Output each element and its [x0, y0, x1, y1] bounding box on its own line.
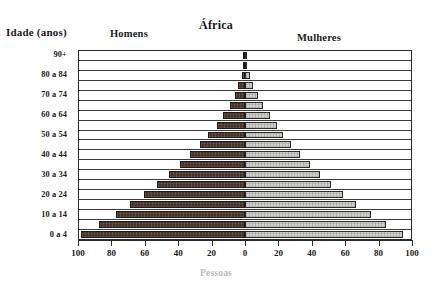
bar-mulheres [245, 221, 386, 228]
bar-row [79, 70, 411, 80]
y-tick-label: 80 a 84 [0, 70, 72, 80]
x-tick [245, 240, 246, 246]
bar-homens [130, 201, 245, 208]
bar-mulheres [245, 72, 250, 79]
bar-homens [169, 171, 245, 178]
bar-row [79, 90, 411, 100]
x-tick-label: 20 [207, 248, 216, 258]
bar-homens [157, 181, 245, 188]
legend-label-mulheres: Mulheres [297, 32, 341, 43]
bar-rows [79, 51, 411, 239]
x-tick-label: 60 [341, 248, 350, 258]
bar-row [79, 209, 411, 219]
x-axis: 10080604020020406080100 [78, 240, 412, 241]
x-tick [345, 240, 346, 246]
bar-homens [81, 231, 245, 238]
y-tick-label: 10 a 14 [0, 210, 72, 220]
bar-mulheres [245, 231, 403, 238]
y-tick-label: 20 a 24 [0, 190, 72, 200]
bar-row [79, 159, 411, 169]
bar-row [79, 80, 411, 90]
x-tick-label: 80 [374, 248, 383, 258]
bar-mulheres [245, 102, 263, 109]
x-tick-label: 40 [174, 248, 183, 258]
bar-homens [238, 82, 245, 89]
y-tick-label: 70 a 74 [0, 90, 72, 100]
bar-mulheres [245, 62, 247, 69]
bar-mulheres [245, 211, 371, 218]
bar-mulheres [245, 151, 300, 158]
x-tick [312, 240, 313, 246]
bar-mulheres [245, 122, 277, 129]
bar-mulheres [245, 132, 283, 139]
y-tick-label: 90+ [0, 50, 72, 60]
y-tick-label: 60 a 64 [0, 110, 72, 120]
bar-mulheres [245, 82, 253, 89]
x-tick-label: 80 [107, 248, 116, 258]
bar-homens [208, 132, 245, 139]
bar-row [79, 110, 411, 120]
bar-mulheres [245, 141, 291, 148]
x-tick [379, 240, 380, 246]
x-tick-label: 100 [405, 248, 419, 258]
x-tick-label: 20 [274, 248, 283, 258]
x-tick-label: 100 [71, 248, 85, 258]
bar-row [79, 219, 411, 229]
bar-row [79, 139, 411, 149]
bar-mulheres [245, 161, 310, 168]
x-tick-label: 40 [307, 248, 316, 258]
bar-mulheres [245, 112, 270, 119]
bar-mulheres [245, 201, 356, 208]
bar-homens [190, 151, 245, 158]
bar-mulheres [245, 52, 247, 59]
bar-row [79, 199, 411, 209]
bar-row [79, 120, 411, 130]
bar-row [79, 189, 411, 199]
bar-homens [235, 92, 245, 99]
x-tick [145, 240, 146, 246]
y-tick-label: 0 a 4 [0, 230, 72, 240]
bar-homens [116, 211, 245, 218]
bar-homens [180, 161, 245, 168]
bar-row [79, 229, 411, 239]
y-axis-labels: 0 a 410 a 1420 a 2430 a 3440 a 4450 a 54… [0, 50, 72, 240]
x-axis-title: Pessoas [0, 268, 432, 278]
plot-area [78, 50, 412, 240]
chart-canvas: Idade (anos) Homens África Mulheres 0 a … [0, 0, 432, 285]
x-tick-label: 60 [140, 248, 149, 258]
bar-row [79, 51, 411, 60]
bar-row [79, 100, 411, 110]
bar-mulheres [245, 181, 331, 188]
bar-row [79, 60, 411, 70]
x-tick [212, 240, 213, 246]
bar-homens [99, 221, 245, 228]
bar-row [79, 149, 411, 159]
bar-row [79, 179, 411, 189]
chart-title: África [0, 18, 432, 33]
x-tick [111, 240, 112, 246]
bar-mulheres [245, 92, 258, 99]
x-tick [412, 240, 413, 246]
bar-homens [223, 112, 245, 119]
bar-row [79, 169, 411, 179]
x-tick [78, 240, 79, 246]
x-tick [278, 240, 279, 246]
bar-row [79, 130, 411, 140]
bar-homens [144, 191, 245, 198]
y-tick-label: 30 a 34 [0, 170, 72, 180]
bar-mulheres [245, 191, 343, 198]
bar-homens [217, 122, 245, 129]
bar-mulheres [245, 171, 320, 178]
y-tick-label: 40 a 44 [0, 150, 72, 160]
x-tick [178, 240, 179, 246]
bar-homens [200, 141, 245, 148]
y-tick-label: 50 a 54 [0, 130, 72, 140]
x-tick-label: 0 [243, 248, 248, 258]
bar-homens [230, 102, 245, 109]
